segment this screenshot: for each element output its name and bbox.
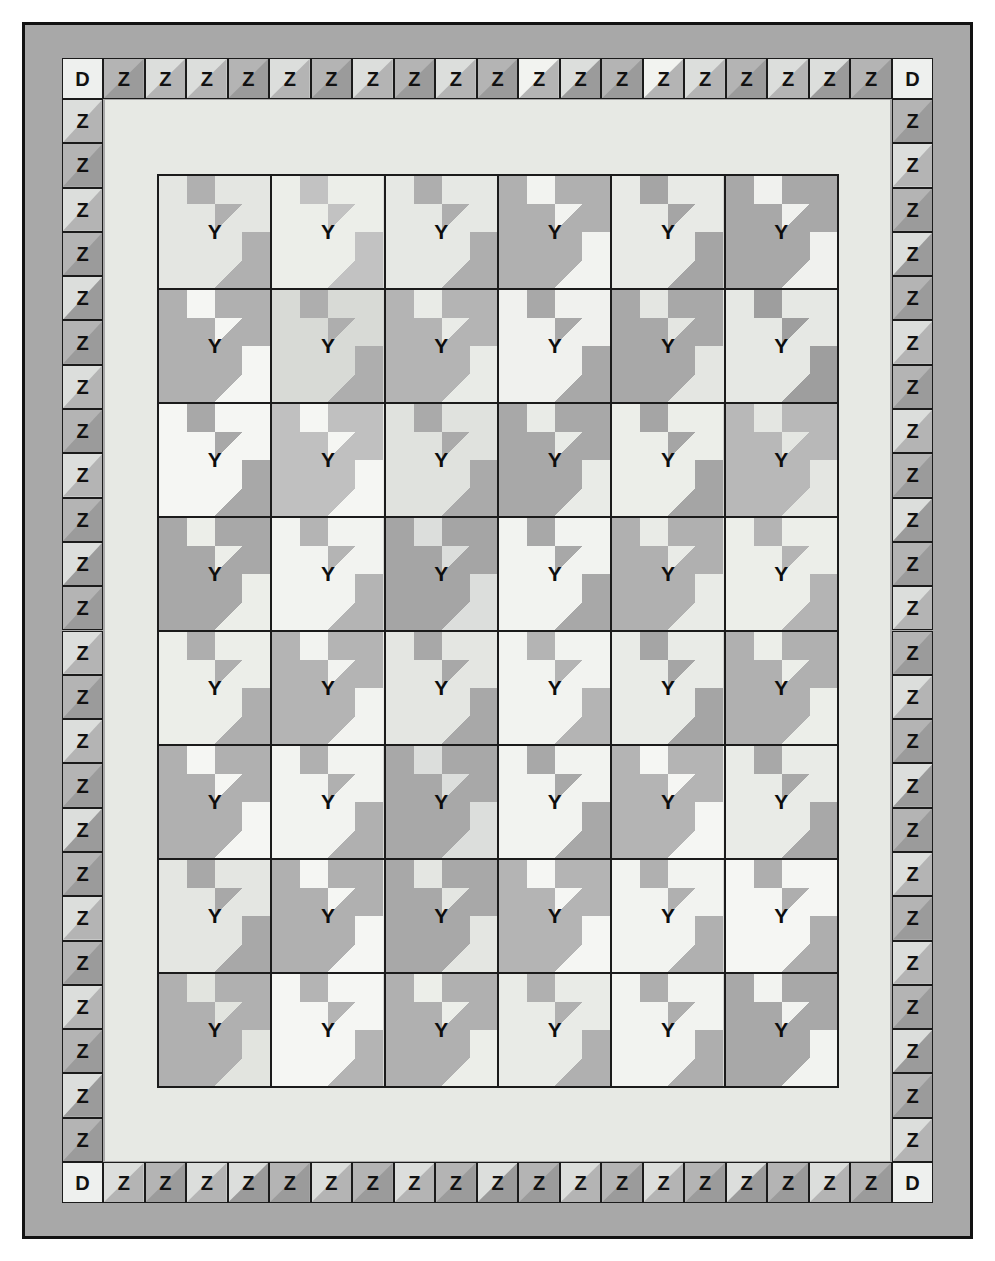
border-block-bottom-10: Z <box>518 1162 560 1203</box>
border-block-letter: Z <box>76 1041 88 1061</box>
border-block-letter: Z <box>906 510 918 530</box>
border-block-bottom-8: Z <box>435 1162 477 1203</box>
quilt-block-r7-c3: Y <box>499 974 612 1088</box>
border-block-letter: D <box>905 69 919 89</box>
border-block-right-8: Z <box>892 453 933 497</box>
quilt-block-r1-c0: Y <box>159 290 272 404</box>
border-block-letter: Z <box>201 69 213 89</box>
border-block-top-6: Z <box>352 58 394 99</box>
border-block-bottom-18: Z <box>850 1162 892 1203</box>
border-block-top-7: Z <box>394 58 436 99</box>
quilt-block-grid: YYYYYYYYYYYYYYYYYYYYYYYYYYYYYYYYYYYYYYYY… <box>157 174 839 1088</box>
border-block-letter: Z <box>782 69 794 89</box>
border-block-letter: Z <box>450 69 462 89</box>
border-block-left-5: Z <box>62 320 103 364</box>
border-block-right-21: Z <box>892 1029 933 1073</box>
border-block-letter: Z <box>657 69 669 89</box>
quilt-block-r1-c4: Y <box>612 290 725 404</box>
border-block-letter: Z <box>906 820 918 840</box>
quilt-block-r0-c2: Y <box>386 176 499 290</box>
quilt-block-r2-c0: Y <box>159 404 272 518</box>
border-block-letter: Z <box>367 1173 379 1193</box>
border-block-right-16: Z <box>892 808 933 852</box>
quilt-block-r7-c2: Y <box>386 974 499 1088</box>
border-block-letter: Z <box>76 333 88 353</box>
quilt-block-r0-c1: Y <box>272 176 385 290</box>
border-block-letter: Z <box>325 1173 337 1193</box>
quilt-block-r2-c2: Y <box>386 404 499 518</box>
border-block-top-9: Z <box>477 58 519 99</box>
border-block-bottom-9: Z <box>477 1162 519 1203</box>
border-block-letter: Z <box>325 69 337 89</box>
quilt-block-r7-c1: Y <box>272 974 385 1088</box>
quilt-block-r3-c0: Y <box>159 518 272 632</box>
quilt-block-r6-c0: Y <box>159 860 272 974</box>
border-block-letter: Z <box>906 377 918 397</box>
border-block-top-11: Z <box>560 58 602 99</box>
border-block-right-15: Z <box>892 763 933 807</box>
quilt-block-r2-c5: Y <box>726 404 839 518</box>
border-block-letter: Z <box>76 554 88 574</box>
border-block-bottom-3: Z <box>228 1162 270 1203</box>
border-block-bottom-4: Z <box>269 1162 311 1203</box>
quilt-block-r5-c2: Y <box>386 746 499 860</box>
border-block-letter: Z <box>159 69 171 89</box>
border-block-left-16: Z <box>62 808 103 852</box>
border-block-letter: D <box>75 1173 89 1193</box>
border-block-letter: Z <box>906 244 918 264</box>
border-block-letter: Z <box>824 69 836 89</box>
border-block-letter: Z <box>906 908 918 928</box>
quilt-block-r4-c2: Y <box>386 632 499 746</box>
border-block-letter: Z <box>906 421 918 441</box>
quilt-block-r3-c3: Y <box>499 518 612 632</box>
border-block-letter: Z <box>741 1173 753 1193</box>
border-block-bottom-13: Z <box>643 1162 685 1203</box>
border-block-top-15: Z <box>726 58 768 99</box>
border-block-letter: Z <box>906 997 918 1017</box>
border-block-left-15: Z <box>62 763 103 807</box>
border-block-letter: Z <box>574 69 586 89</box>
border-block-left-17: Z <box>62 852 103 896</box>
border-block-letter: Z <box>782 1173 794 1193</box>
border-block-letter: Z <box>906 111 918 131</box>
border-block-letter: Z <box>201 1173 213 1193</box>
corner-block-bottom-left: D <box>62 1162 103 1203</box>
quilt-block-r1-c5: Y <box>726 290 839 404</box>
border-block-letter: Z <box>741 69 753 89</box>
border-block-letter: Z <box>906 200 918 220</box>
border-block-letter: Z <box>699 1173 711 1193</box>
quilt-block-r3-c5: Y <box>726 518 839 632</box>
border-block-top-17: Z <box>809 58 851 99</box>
corner-block-bottom-right: D <box>892 1162 933 1203</box>
quilt-block-r3-c2: Y <box>386 518 499 632</box>
border-block-right-13: Z <box>892 675 933 719</box>
border-block-top-16: Z <box>767 58 809 99</box>
border-block-letter: Z <box>865 1173 877 1193</box>
border-block-letter: Z <box>699 69 711 89</box>
quilt-block-r6-c3: Y <box>499 860 612 974</box>
border-block-left-14: Z <box>62 719 103 763</box>
border-block-bottom-5: Z <box>311 1162 353 1203</box>
border-block-top-4: Z <box>269 58 311 99</box>
border-block-left-8: Z <box>62 453 103 497</box>
border-block-bottom-2: Z <box>186 1162 228 1203</box>
quilt-block-r0-c3: Y <box>499 176 612 290</box>
quilt-block-r2-c4: Y <box>612 404 725 518</box>
border-block-letter: Z <box>906 288 918 308</box>
quilt-block-r3-c1: Y <box>272 518 385 632</box>
quilt-block-r4-c5: Y <box>726 632 839 746</box>
border-block-letter: Z <box>906 1130 918 1150</box>
border-block-letter: Z <box>408 1173 420 1193</box>
border-block-letter: Z <box>865 69 877 89</box>
border-block-top-3: Z <box>228 58 270 99</box>
border-block-letter: Z <box>76 510 88 530</box>
border-block-letter: D <box>75 69 89 89</box>
border-block-right-14: Z <box>892 719 933 763</box>
border-block-letter: Z <box>76 687 88 707</box>
border-block-letter: Z <box>616 1173 628 1193</box>
border-block-left-21: Z <box>62 1029 103 1073</box>
border-block-letter: D <box>905 1173 919 1193</box>
border-block-letter: Z <box>159 1173 171 1193</box>
border-block-right-19: Z <box>892 941 933 985</box>
border-block-top-1: Z <box>145 58 187 99</box>
